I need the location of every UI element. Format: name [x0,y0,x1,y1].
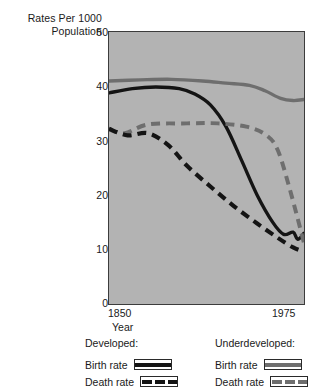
legend-group-underdeveloped: Underdeveloped: Birth rate Death rate [215,337,308,391]
legend: Developed: Birth rate Death rate Underde… [0,337,319,378]
series-canvas [109,32,304,304]
series-underdeveloped-birth-rate [109,79,304,100]
dashed-gray-line-icon [270,376,308,387]
y-tick-40: 40 [82,81,108,92]
legend-group-developed: Developed: Birth rate Death rate [85,337,178,391]
legend-row-developed-death-rate: Death rate [85,374,178,389]
y-tick-20: 20 [82,190,108,201]
y-tick-50: 50 [82,27,108,38]
solid-dark-line-icon [134,359,172,370]
legend-label-developed-death-rate: Death rate [85,376,134,388]
legend-label-underdeveloped-birth-rate: Birth rate [215,359,258,371]
x-axis-title: Year [112,321,133,333]
legend-label-underdeveloped-death-rate: Death rate [215,376,264,388]
y-axis-tick-labels: 50 40 30 20 10 0 [72,0,108,378]
legend-label-developed-birth-rate: Birth rate [85,359,128,371]
series-developed-birth-rate [109,87,304,239]
x-tick-1975: 1975 [272,308,295,319]
legend-row-developed-birth-rate: Birth rate [85,357,178,372]
legend-title-underdeveloped: Underdeveloped: [215,337,308,349]
y-tick-0: 0 [82,298,108,309]
y-tick-10: 10 [82,244,108,255]
series-developed-death-rate [109,129,304,252]
legend-title-developed: Developed: [85,337,178,349]
solid-gray-line-icon [264,359,302,370]
legend-row-underdeveloped-birth-rate: Birth rate [215,357,308,372]
y-tick-30: 30 [82,136,108,147]
legend-row-underdeveloped-death-rate: Death rate [215,374,308,389]
x-tick-1850: 1850 [108,308,131,319]
dashed-dark-line-icon [140,376,178,387]
plot-area [108,31,305,305]
